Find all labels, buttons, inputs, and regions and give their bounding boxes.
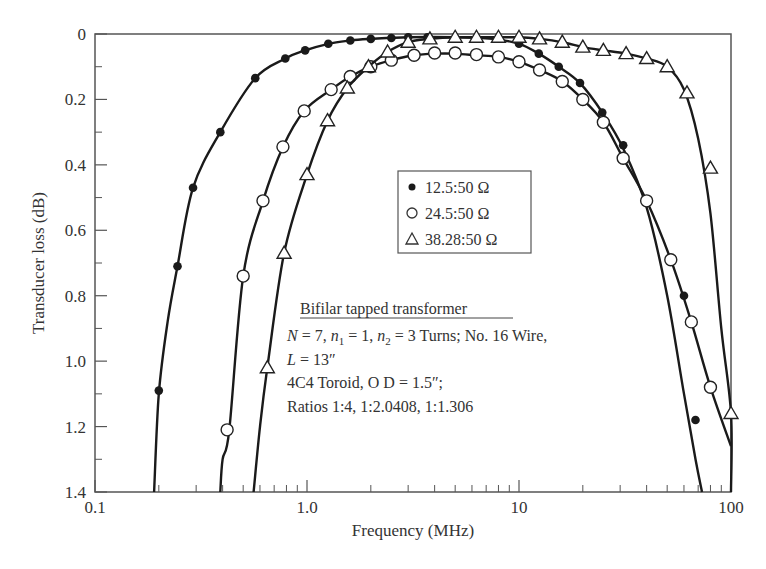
legend-label-3: 38.28:50 Ω [425,231,497,248]
y-tick-label: 0.2 [65,90,86,109]
y-tick-label: 0.4 [65,156,87,175]
open-circle-marker [449,47,461,59]
legend-filled-circle-icon [409,184,416,191]
filled-circle-marker [324,40,333,49]
open-triangle-marker [277,246,291,258]
filled-circle-marker [281,54,290,63]
x-tick-label: 0.1 [84,498,105,517]
filled-circle-marker [619,141,628,150]
open-triangle-marker [321,114,335,126]
open-triangle-marker [381,45,395,57]
filled-circle-marker [173,262,182,271]
legend-label-1: 12.5:50 Ω [425,179,489,196]
filled-circle-marker [535,49,544,58]
filled-circle-marker [367,35,376,44]
open-circle-marker [617,152,629,164]
filled-circle-marker [301,46,310,55]
open-circle-marker [298,105,310,117]
open-circle-marker [325,84,337,96]
legend-open-circle-icon [407,208,417,218]
filled-circle-marker [346,36,355,45]
y-tick-label: 1.4 [65,483,87,502]
legend-label-2: 24.5:50 Ω [425,205,489,222]
y-axis-label: Transducer loss (dB) [29,192,48,334]
open-circle-marker [685,316,697,328]
y-tick-label: 0.8 [65,287,86,306]
annotation-line-4: Ratios 1:4, 1:2.0408, 1:1.306 [287,398,473,415]
filled-circle-marker [576,79,585,88]
open-circle-marker [470,49,482,61]
annotation-line-3: 4C4 Toroid, O D = 1.5″; [287,374,443,391]
series-2 [220,47,731,492]
transducer-loss-chart: 00.20.40.60.81.01.21.40.11.010100 Freque… [0,0,766,569]
plot-axes [95,34,731,492]
data-series [154,30,738,492]
axis-ticks: 00.20.40.60.81.01.21.40.11.010100 [65,25,744,517]
filled-circle-marker [189,183,198,192]
open-triangle-marker [300,168,314,180]
x-tick-label: 100 [718,498,744,517]
y-tick-label: 1.2 [65,418,86,437]
y-tick-label: 0 [78,25,87,44]
open-triangle-marker [260,361,274,373]
filled-circle-marker [387,34,396,43]
y-tick-label: 0.6 [65,221,86,240]
filled-circle-marker [691,416,700,425]
x-axis-label: Frequency (MHz) [352,521,474,540]
annotation-block: Bifilar tapped transformer N = 7, n1 = 1… [286,300,547,415]
x-tick-label: 1.0 [296,498,317,517]
filled-circle-marker [155,386,164,395]
annotation-line-2: L = 13″ [286,351,336,368]
plot-frame [95,34,731,492]
open-circle-marker [492,51,504,63]
y-tick-label: 1.0 [65,352,86,371]
open-triangle-marker [703,161,717,173]
open-circle-marker [597,116,609,128]
open-circle-marker [704,381,716,393]
open-circle-marker [408,49,420,61]
open-circle-marker [641,195,653,207]
open-circle-marker [513,56,525,68]
annotation-title: Bifilar tapped transformer [300,300,468,318]
open-circle-marker [556,75,568,87]
series-curve [154,37,702,492]
open-circle-marker [257,195,269,207]
open-circle-marker [221,424,233,436]
legend: 12.5:50 Ω 24.5:50 Ω 38.28:50 Ω [398,171,531,253]
open-circle-marker [577,93,589,105]
filled-circle-marker [554,62,563,71]
open-triangle-marker [724,406,738,418]
open-circle-marker [534,64,546,76]
annotation-line-1: N = 7, n1 = 1, n2 = 3 Turns; No. 16 Wire… [286,327,547,347]
open-circle-marker [429,47,441,59]
series-curve [220,53,731,492]
open-circle-marker [665,254,677,266]
filled-circle-marker [251,74,260,83]
open-circle-marker [237,270,249,282]
x-tick-label: 10 [511,498,528,517]
open-circle-marker [277,141,289,153]
series-1 [154,33,702,492]
filled-circle-marker [216,128,225,137]
open-triangle-marker [660,60,674,72]
